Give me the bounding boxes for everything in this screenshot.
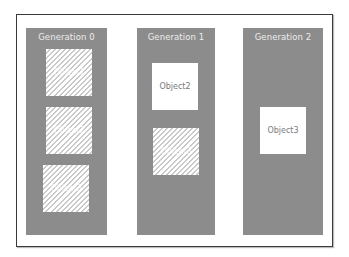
object-collected-hatched: Object3 [153, 128, 199, 175]
object-label: Object2 [159, 82, 190, 91]
generation-2-column: Generation 2 Object3 [243, 28, 323, 235]
generation-1-title: Generation 1 [137, 32, 215, 42]
generation-1-column: Generation 1 Object2 Object3 [137, 28, 215, 235]
object-label: Object2 [53, 126, 84, 135]
object-live: Object3 [260, 107, 306, 154]
object-collected-hatched: Object1 [46, 49, 92, 96]
object-label: Object3 [267, 126, 298, 135]
object-collected-hatched: Object2 [46, 107, 92, 154]
object-live: Object2 [152, 63, 198, 110]
generation-2-title: Generation 2 [243, 32, 323, 42]
object-label: Object3 [50, 184, 81, 193]
object-label: Object1 [53, 68, 84, 77]
object-label: Object3 [160, 147, 191, 156]
generation-0-title: Generation 0 [26, 32, 107, 42]
generation-0-column: Generation 0 Object1 Object2 Object3 [26, 28, 107, 235]
object-collected-hatched: Object3 [43, 165, 89, 212]
